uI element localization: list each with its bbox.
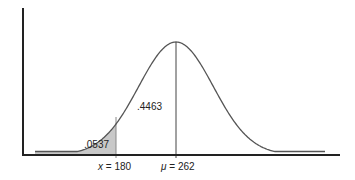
tail-area-label: .0537: [84, 139, 109, 150]
mean-marker-label: μ = 262: [161, 161, 195, 172]
normal-curve: [35, 42, 325, 152]
middle-area-label: .4463: [137, 101, 162, 112]
x-value: = 180: [103, 161, 131, 172]
mu-value: = 262: [166, 161, 194, 172]
x-marker-label: x = 180: [98, 161, 131, 172]
normal-curve-chart: [0, 0, 355, 180]
